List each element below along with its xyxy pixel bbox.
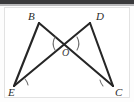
angle-arc-at-o-left bbox=[53, 37, 55, 50]
vertex-label-d: D bbox=[95, 10, 104, 22]
figure-canvas: B D E C O bbox=[0, 0, 134, 102]
angle-arc-at-e bbox=[25, 79, 28, 85]
geometry-figure: B D E C O bbox=[0, 0, 134, 102]
vertex-label-b: B bbox=[28, 10, 35, 22]
angle-arc-at-c bbox=[100, 80, 103, 86]
vertex-label-e: E bbox=[7, 86, 15, 98]
vertex-label-c: C bbox=[115, 86, 123, 98]
point-label-o: O bbox=[62, 47, 69, 58]
angle-arc-at-o-right bbox=[77, 37, 79, 50]
